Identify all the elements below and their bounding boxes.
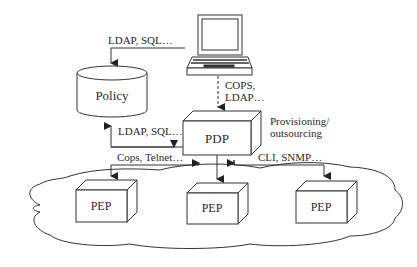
policy-architecture-diagram: LDAP, SQL… Policy COPS, LDAP… PDP Provis… [0, 0, 417, 267]
edge-label-cops: COPS, [225, 79, 256, 91]
pep-box-center: PEP [187, 183, 248, 224]
pdp-box: PDP [183, 111, 261, 155]
diagram-svg: LDAP, SQL… Policy COPS, LDAP… PDP Provis… [0, 0, 417, 267]
pdp-note-provisioning: Provisioning/ [270, 115, 330, 127]
laptop-icon [187, 15, 252, 75]
policy-label: Policy [95, 88, 129, 103]
pep-left-label: PEP [91, 199, 112, 213]
edge-laptop-pdp: COPS, LDAP… [218, 76, 265, 107]
edge-label-ldap: LDAP… [225, 91, 265, 103]
edge-label-cops-telnet: Cops, Telnet… [117, 151, 183, 163]
edge-label-laptop-policy: LDAP, SQL… [108, 34, 173, 46]
pdp-note-outsourcing: outsourcing [270, 127, 322, 139]
edge-laptop-policy: LDAP, SQL… [108, 34, 185, 63]
pep-right-label: PEP [311, 200, 332, 214]
pdp-label: PDP [205, 131, 229, 146]
edge-pdp-policy: LDAP, SQL… [111, 125, 183, 147]
edge-label-cli-snmp: CLI, SNMP… [258, 151, 322, 163]
pep-box-left: PEP [76, 180, 137, 222]
edge-label-pdp-policy: LDAP, SQL… [118, 125, 183, 137]
pep-center-label: PEP [202, 201, 223, 215]
policy-cylinder: Policy [77, 66, 147, 117]
pep-box-right: PEP [296, 181, 357, 223]
